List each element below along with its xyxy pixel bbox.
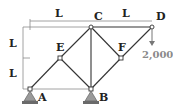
dim-label-top-right: L [122, 7, 130, 20]
node-label-e: E [56, 41, 64, 54]
dim-label-left-top: L [9, 37, 17, 50]
dim-label-top-left: L [55, 7, 63, 20]
joint-c [89, 25, 93, 29]
load-value: 2,000 [142, 49, 173, 61]
pin-support-b [83, 91, 99, 104]
node-label-a: A [37, 91, 47, 104]
joint-d [150, 25, 154, 29]
node-label-b: B [99, 91, 108, 104]
load-arrow-icon [149, 29, 155, 46]
node-label-f: F [118, 41, 126, 54]
joint-f [119, 56, 123, 60]
joint-e [58, 56, 62, 60]
node-label-d: D [156, 10, 166, 23]
pin-support-a [22, 91, 38, 104]
joint-b [89, 87, 93, 91]
truss-members [30, 27, 152, 89]
dim-label-left-bottom: L [9, 67, 17, 80]
joint-a [28, 87, 32, 91]
node-label-c: C [94, 10, 103, 23]
dimension-lines [23, 19, 152, 89]
truss-diagram: L L L L A B C D E F 2,000 [0, 0, 173, 111]
